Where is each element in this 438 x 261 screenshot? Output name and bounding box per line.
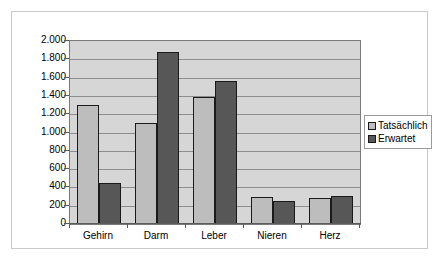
- bars-layer: [70, 41, 360, 224]
- bar[interactable]: [157, 52, 179, 224]
- y-axis-tick-label: 0: [26, 218, 66, 228]
- x-axis-tick-mark: [359, 224, 360, 228]
- legend-item[interactable]: Erwartet: [368, 132, 427, 145]
- x-axis-tick-marks: [69, 224, 361, 228]
- bar[interactable]: [273, 201, 295, 224]
- bar[interactable]: [77, 105, 99, 224]
- x-axis-tick-mark: [185, 224, 186, 228]
- x-axis-category-label: Herz: [301, 230, 359, 242]
- bar[interactable]: [309, 198, 331, 224]
- legend-swatch-icon: [368, 135, 376, 143]
- bar[interactable]: [99, 183, 121, 224]
- y-axis-tick-label: 1.800: [26, 53, 66, 63]
- bar-group: [186, 41, 244, 224]
- bar[interactable]: [135, 123, 157, 224]
- x-axis-category-label: Gehirn: [69, 230, 127, 242]
- bar[interactable]: [251, 197, 273, 224]
- x-axis-tick-mark: [301, 224, 302, 228]
- y-axis-tick-label: 200: [26, 200, 66, 210]
- plot-area: [69, 40, 361, 225]
- bar[interactable]: [193, 97, 215, 224]
- legend-item[interactable]: Tatsächlich: [368, 119, 427, 132]
- y-axis-tick-label: 1.600: [26, 72, 66, 82]
- chart-screenshot: 2.0001.8001.6001.4001.2001.0008006004002…: [0, 0, 438, 261]
- bar[interactable]: [331, 196, 353, 224]
- chart-legend: TatsächlichErwartet: [364, 115, 432, 149]
- x-axis-tick-mark: [243, 224, 244, 228]
- bar-group: [302, 41, 360, 224]
- y-axis-tick-label: 1.400: [26, 90, 66, 100]
- x-axis-category-label: Nieren: [243, 230, 301, 242]
- bar[interactable]: [215, 81, 237, 224]
- y-axis-tick-label: 2.000: [26, 35, 66, 45]
- y-axis-tick-label: 400: [26, 181, 66, 191]
- y-axis-tick-label: 600: [26, 163, 66, 173]
- legend-item-label: Tatsächlich: [378, 120, 427, 131]
- bar-group: [128, 41, 186, 224]
- chart-frame: 2.0001.8001.6001.4001.2001.0008006004002…: [11, 11, 428, 249]
- x-axis-tick-mark: [69, 224, 70, 228]
- x-axis-category-labels: GehirnDarmLeberNierenHerz: [69, 230, 359, 242]
- y-axis-tick-label: 1.200: [26, 108, 66, 118]
- x-axis-tick-mark: [127, 224, 128, 228]
- legend-item-label: Erwartet: [378, 133, 415, 144]
- bar-group: [70, 41, 128, 224]
- x-axis-category-label: Darm: [127, 230, 185, 242]
- y-axis-tick-label: 800: [26, 145, 66, 155]
- y-axis-tick-label: 1.000: [26, 127, 66, 137]
- x-axis-category-label: Leber: [185, 230, 243, 242]
- legend-swatch-icon: [368, 122, 376, 130]
- bar-group: [244, 41, 302, 224]
- y-axis-tick-labels: 2.0001.8001.6001.4001.2001.0008006004002…: [26, 36, 66, 226]
